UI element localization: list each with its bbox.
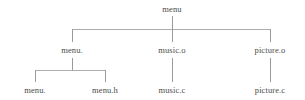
tree-diagram: menu menu. music.o picture.o menu. menu.…: [0, 0, 305, 100]
tree-node-root: menu: [162, 4, 181, 14]
tree-node-menu-h: menu.h: [92, 85, 118, 95]
tree-node-menu-c: menu.: [24, 85, 46, 95]
tree-node-music-c: music.c: [159, 85, 186, 95]
tree-node-music-o: music.o: [158, 45, 185, 55]
tree-node-picture-c: picture.c: [255, 85, 285, 95]
edge-bus-to-menu-o: [72, 29, 73, 42]
tree-node-menu-o: menu.: [61, 45, 83, 55]
edge-bus-to-menu-c: [35, 70, 36, 82]
edge-root-to-bus: [172, 16, 173, 30]
edge-music-o-to-music-c: [172, 58, 173, 82]
edge-picture-o-to-picture-c: [270, 58, 271, 82]
tree-node-picture-o: picture.o: [255, 45, 286, 55]
edge-bus-to-music-o: [172, 29, 173, 42]
edge-bus-to-picture-o: [270, 29, 271, 42]
edge-bus-to-menu-h: [105, 70, 106, 82]
edge-bus-level2-menu: [35, 70, 106, 71]
